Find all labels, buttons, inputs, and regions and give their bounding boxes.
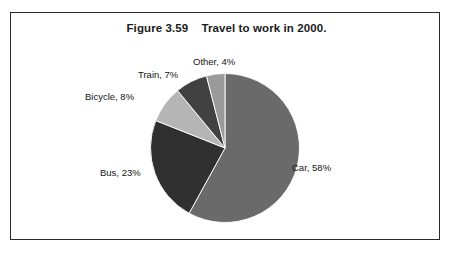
figure-page: Figure 3.59 Travel to work in 2000. Car,…	[0, 0, 453, 254]
pie-label-bicycle: Bicycle, 8%	[85, 92, 134, 102]
pie-label-bus: Bus, 23%	[100, 168, 141, 178]
pie-label-car: Car, 58%	[292, 163, 331, 173]
pie-label-other: Other, 4%	[193, 57, 235, 67]
pie-chart	[150, 73, 300, 223]
pie-label-train: Train, 7%	[138, 70, 178, 80]
pie-chart-svg	[150, 73, 300, 223]
figure-title: Figure 3.59 Travel to work in 2000.	[0, 22, 453, 34]
pie-slice-group	[151, 74, 300, 223]
